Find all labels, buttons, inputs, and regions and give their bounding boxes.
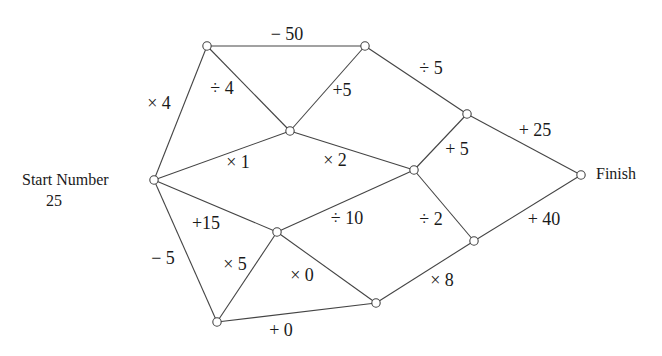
edge-I-G: [376, 241, 474, 303]
edge-H-I: [217, 303, 376, 322]
node-H: [213, 318, 221, 326]
edge-operation-label: ÷ 2: [419, 210, 442, 228]
node-G: [470, 237, 478, 245]
edge-start-C: [154, 131, 290, 180]
edge-operation-label: × 4: [147, 94, 171, 112]
edge-operation-label: ÷ 5: [419, 59, 442, 77]
edge-B-C: [290, 46, 365, 131]
finish-label: Finish: [596, 166, 636, 182]
edge-C-E: [290, 131, 414, 170]
edge-operation-label: × 0: [290, 266, 314, 284]
edge-E-G: [414, 170, 474, 241]
edge-operation-label: ÷ 10: [331, 209, 363, 227]
node-finish: [577, 171, 585, 179]
node-E: [410, 166, 418, 174]
node-F: [273, 228, 281, 236]
edge-operation-label: +5: [332, 81, 351, 99]
node-C: [286, 127, 294, 135]
node-A: [203, 42, 211, 50]
edge-operation-label: + 5: [445, 140, 469, 158]
start-value: 25: [46, 193, 62, 209]
edge-operation-label: − 50: [271, 25, 304, 43]
node-B: [361, 42, 369, 50]
edge-operation-label: − 5: [151, 249, 175, 267]
edge-B-D: [365, 46, 467, 114]
edge-operation-label: × 8: [430, 271, 454, 289]
edge-operation-label: ÷ 4: [210, 79, 233, 97]
node-I: [372, 299, 380, 307]
edge-operation-label: + 40: [528, 210, 561, 228]
node-start: [150, 176, 158, 184]
edge-H-F: [217, 232, 277, 322]
edge-operation-label: +15: [192, 214, 220, 232]
edge-operation-label: + 25: [519, 121, 552, 139]
edge-operation-label: × 5: [223, 255, 247, 273]
edge-operation-label: × 1: [226, 153, 250, 171]
edge-G-finish: [474, 175, 581, 241]
node-D: [463, 110, 471, 118]
edge-start-A: [154, 46, 207, 180]
edge-operation-label: × 2: [323, 151, 347, 169]
edge-operation-label: + 0: [269, 321, 293, 339]
start-label: Start Number: [22, 172, 109, 188]
